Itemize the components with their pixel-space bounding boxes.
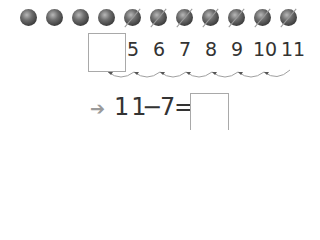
arrow-right-icon: ➔: [90, 98, 105, 119]
equation-right: 7: [160, 93, 175, 121]
answer-box[interactable]: [190, 93, 229, 130]
